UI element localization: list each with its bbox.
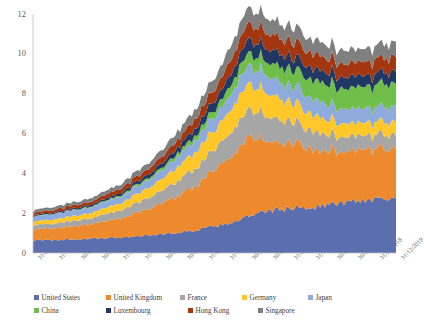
legend-label: Luxembourg — [114, 307, 151, 315]
legend-swatch-icon — [188, 308, 193, 313]
legend-swatch-icon — [106, 308, 111, 313]
legend-row: ChinaLuxembourgHong KongSingapore — [34, 304, 394, 317]
legend-swatch-icon — [34, 308, 39, 313]
legend-label: China — [42, 307, 59, 315]
legend-item-germany[interactable]: Germany — [242, 294, 308, 302]
legend-row: United StatesUnited KingdomFranceGermany… — [34, 291, 394, 304]
legend-swatch-icon — [106, 295, 111, 300]
legend-swatch-icon — [308, 295, 313, 300]
legend-label: Singapore — [266, 307, 295, 315]
legend-item-united-kingdom[interactable]: United Kingdom — [106, 294, 180, 302]
legend-item-france[interactable]: France — [180, 294, 242, 302]
chart-legend: United StatesUnited KingdomFranceGermany… — [34, 291, 394, 317]
legend-label: United Kingdom — [114, 294, 163, 302]
legend-swatch-icon — [258, 308, 263, 313]
legend-label: Hong Kong — [196, 307, 230, 315]
legend-label: Germany — [250, 294, 277, 302]
legend-item-china[interactable]: China — [34, 307, 106, 315]
legend-swatch-icon — [242, 295, 247, 300]
legend-item-united-states[interactable]: United States — [34, 294, 106, 302]
legend-item-luxembourg[interactable]: Luxembourg — [106, 307, 188, 315]
legend-label: Japan — [316, 294, 332, 302]
legend-swatch-icon — [34, 295, 39, 300]
legend-item-japan[interactable]: Japan — [308, 294, 358, 302]
legend-item-singapore[interactable]: Singapore — [258, 307, 328, 315]
legend-label: United States — [42, 294, 81, 302]
legend-label: France — [188, 294, 208, 302]
legend-item-hong-kong[interactable]: Hong Kong — [188, 307, 258, 315]
legend-swatch-icon — [180, 295, 185, 300]
